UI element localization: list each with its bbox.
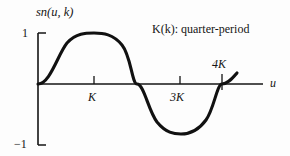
x-tick-label-k: K [88, 91, 96, 103]
annotation-text: K(k): quarter-period [152, 22, 249, 36]
x-axis-label: u [270, 77, 276, 89]
y-axis-label: sn(u, k) [36, 6, 74, 19]
x-tick-label-4k: 4K [212, 58, 226, 70]
y-tick-label-top: 1 [22, 27, 28, 39]
quarter-period-annotation: K(k): quarter-period [152, 23, 249, 35]
sn-elliptic-function-figure: sn(u, k) K(k): quarter-period 1 −1 K 3K … [0, 0, 290, 156]
y-tick-label-bottom: −1 [14, 138, 27, 150]
y-axis-label-text: sn(u, k) [36, 5, 74, 19]
x-tick-label-3k: 3K [170, 91, 184, 103]
